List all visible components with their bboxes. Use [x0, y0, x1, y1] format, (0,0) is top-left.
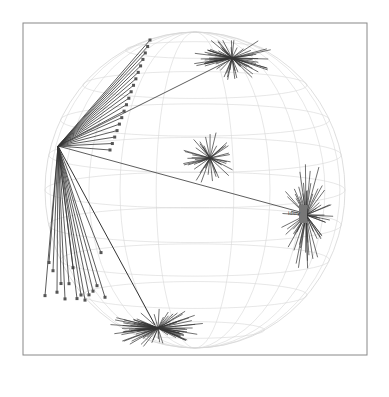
hub-label: Idsry: [288, 210, 300, 217]
sphere-network-diagram: Idsry: [0, 0, 389, 397]
plot-frame: [23, 23, 367, 355]
